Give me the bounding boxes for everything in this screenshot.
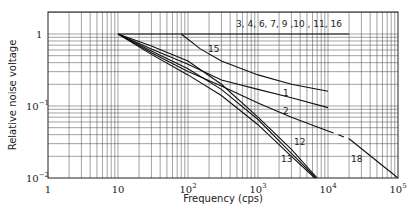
curve-label: 13: [281, 154, 292, 164]
x-tick-label: 1: [45, 184, 51, 195]
curve-label: 18: [351, 154, 363, 164]
y-tick-label: 10−1: [26, 99, 49, 112]
x-tick-label: 10: [112, 184, 125, 195]
curve-label: 12: [294, 137, 305, 147]
curve-label: 1: [283, 88, 289, 98]
y-axis-label: Relative noise voltage: [7, 40, 18, 151]
x-tick-label: 105: [389, 182, 406, 195]
y-tick-label: 1: [36, 29, 42, 40]
noise-voltage-chart: 3, 4, 6, 7, 9 ,10 , 11, 161512121318 110…: [0, 0, 410, 210]
plot-frame: [48, 12, 398, 178]
x-axis-label: Frequency (cps): [183, 193, 263, 204]
curve-label: 3, 4, 6, 7, 9 ,10 , 11, 16: [236, 19, 342, 29]
x-tick-label: 104: [319, 182, 337, 195]
y-tick-labels: 110−110−2: [26, 29, 49, 184]
y-tick-label: 10−2: [26, 171, 49, 184]
grid-lines: [48, 12, 398, 178]
curve-label: 2: [283, 106, 289, 116]
curve-label: 15: [208, 44, 219, 54]
